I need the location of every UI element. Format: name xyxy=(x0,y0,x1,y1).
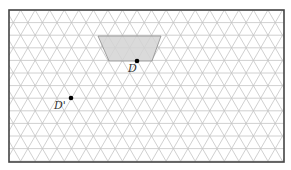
grid-line xyxy=(132,10,224,170)
grid-line xyxy=(59,10,151,170)
grid-line xyxy=(21,10,113,170)
grid-line xyxy=(30,10,122,170)
grid-line xyxy=(181,10,273,170)
grid-line xyxy=(45,10,137,170)
grid-line xyxy=(122,10,214,170)
grid-line xyxy=(166,10,258,170)
grid-line xyxy=(64,10,156,170)
shaded-trapezoid xyxy=(98,36,161,61)
grid-line xyxy=(103,10,195,170)
grid-line xyxy=(152,10,244,170)
grid-line xyxy=(268,10,291,170)
grid-line xyxy=(176,10,268,170)
grid-line xyxy=(0,10,55,170)
grid-lines xyxy=(0,10,291,170)
grid-line xyxy=(89,10,181,170)
grid-line xyxy=(0,10,6,170)
grid-line xyxy=(74,10,166,170)
grid-line xyxy=(224,10,291,170)
triangular-grid-diagram: DD' xyxy=(0,0,291,170)
grid-line xyxy=(118,10,210,170)
grid-line xyxy=(6,10,98,170)
grid-line xyxy=(79,10,171,170)
grid-line xyxy=(0,10,84,170)
grid-line xyxy=(0,10,21,170)
point-label: D' xyxy=(53,99,66,112)
point-label: D xyxy=(127,62,137,75)
grid-line xyxy=(147,10,239,170)
grid-line xyxy=(137,10,229,170)
grid-line xyxy=(50,10,142,170)
grid-line xyxy=(195,10,287,170)
grid-line xyxy=(0,10,50,170)
grid-line xyxy=(161,10,253,170)
point-marker xyxy=(69,96,74,101)
grid-line xyxy=(1,10,93,170)
grid-line xyxy=(108,10,200,170)
grid-line xyxy=(35,10,127,170)
grid-line xyxy=(190,10,282,170)
grid-line xyxy=(93,10,185,170)
grid-line xyxy=(16,10,108,170)
